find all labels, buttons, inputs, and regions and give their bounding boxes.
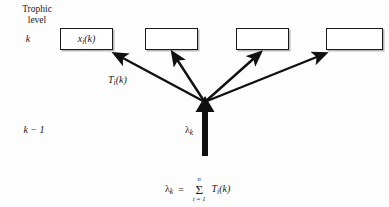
equation-term: Ti(k) [212, 183, 231, 196]
input-flow-label: λk [185, 124, 193, 137]
trophic-flow-diagram: Trophic level k k − 1 xi(k) Ti(k) λk λk [0, 0, 389, 207]
input-arrow-lambda [196, 96, 215, 156]
equation-lhs: λk [165, 183, 173, 196]
equation-equals: = [178, 184, 184, 195]
transfer-arrow-3 [207, 54, 326, 102]
transfer-flow-label: Ti(k) [108, 74, 127, 87]
sigma-icon: Σ [195, 183, 203, 196]
transfer-arrow-2 [206, 53, 261, 102]
summation-operator: n Σ i = 1 [193, 176, 206, 202]
balance-equation: λk = n Σ i = 1 Ti(k) [165, 176, 230, 202]
summation-lower-limit: i = 1 [193, 196, 206, 203]
